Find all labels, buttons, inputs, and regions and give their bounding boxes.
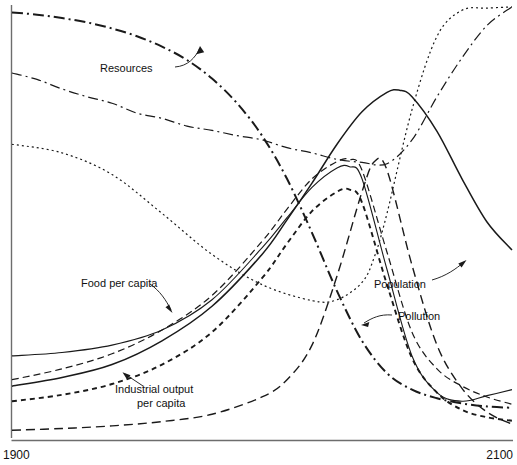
resources-leader-line [175, 48, 200, 67]
chart-canvas: Resources Food per capita Industrial out… [0, 0, 517, 465]
curve-group [12, 7, 512, 430]
axis-tick-labels: 1900 2100 [3, 448, 513, 462]
x-axis-start-tick-label: 1900 [3, 448, 30, 462]
annotation-leaders [123, 46, 467, 386]
label-food-per-capita: Food per capita [81, 277, 158, 289]
curve-industrial-output-per-capita [12, 189, 512, 421]
curve-resources [12, 12, 512, 407]
population-leader-arrow [458, 260, 466, 268]
annotation-labels: Resources Food per capita Industrial out… [81, 62, 440, 409]
label-pollution: Pollution [398, 310, 440, 322]
label-resources: Resources [100, 62, 153, 74]
pollution-leader-line [364, 315, 392, 323]
axes-group [12, 5, 514, 441]
food-per-capita-leader-arrow [166, 305, 173, 313]
label-population: Population [374, 278, 426, 290]
label-industrial-output-line2: per capita [137, 397, 186, 409]
world3-line-chart: Resources Food per capita Industrial out… [0, 0, 517, 465]
label-industrial-output-line1: Industrial output [115, 383, 193, 395]
x-axis-end-tick-label: 2100 [486, 448, 513, 462]
population-leader-line [432, 262, 464, 280]
curve-crude-birth-rate [12, 7, 512, 165]
curve-life-expectancy [12, 7, 512, 302]
resources-leader-arrow [196, 46, 204, 54]
